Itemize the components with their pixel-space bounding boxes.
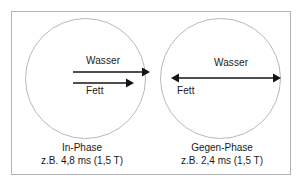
wasser-arrow-in-phase (73, 68, 150, 77)
label-wasser-gegen-phase: Wasser (214, 57, 248, 69)
wasser-fett-double-arrow-gegen-phase (171, 74, 281, 83)
panel-gegen-phase: Wasser Fett Gegen-Phase z.B. 2,4 ms (1,5… (152, 12, 292, 176)
arrowhead-left-fett-icon (171, 74, 179, 83)
arrowhead-right-wasser-icon (273, 74, 281, 83)
panel-in-phase: Wasser Fett In-Phase z.B. 4,8 ms (1,5 T) (12, 12, 152, 176)
caption-subtitle-gegen-phase: z.B. 2,4 ms (1,5 T) (152, 154, 292, 167)
figure-frame: Wasser Fett In-Phase z.B. 4,8 ms (1,5 T)… (11, 11, 291, 175)
arrow-group-gegen-phase (170, 70, 282, 86)
caption-title-gegen-phase: Gegen-Phase (152, 141, 292, 154)
arrowhead-right-wasser-icon (142, 68, 150, 77)
arrowhead-right-fett-icon (126, 79, 134, 88)
arrow-group-in-phase (72, 66, 150, 92)
caption-title-in-phase: In-Phase (12, 141, 152, 154)
label-fett-in-phase: Fett (86, 85, 104, 97)
label-wasser-in-phase: Wasser (86, 55, 120, 67)
phase-diagram-figure: Wasser Fett In-Phase z.B. 4,8 ms (1,5 T)… (0, 0, 303, 187)
caption-subtitle-in-phase: z.B. 4,8 ms (1,5 T) (12, 154, 152, 167)
label-fett-gegen-phase: Fett (177, 85, 195, 97)
